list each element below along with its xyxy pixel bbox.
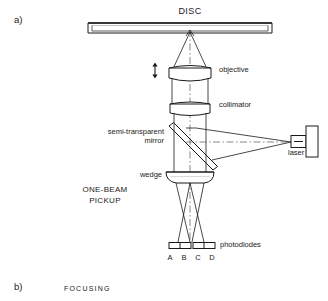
disc-shape xyxy=(88,23,272,33)
objective-label: objective xyxy=(219,65,249,74)
pickup-label-line1: ONE-BEAM xyxy=(58,185,152,196)
panel-b-label: b) xyxy=(14,281,22,292)
panel-a-label: a) xyxy=(14,14,22,25)
semi-transparent-mirror-shape xyxy=(169,123,218,171)
collimator-lens xyxy=(170,102,210,116)
optical-pickup-figure: a) DISC objective collimator semi-transp… xyxy=(0,0,328,301)
semi-transparent-mirror-label-line2: mirror xyxy=(46,136,164,145)
wedge-lens xyxy=(166,172,214,183)
photodiode-array xyxy=(169,243,215,249)
panel-b-title: FOCUSING xyxy=(64,284,111,293)
photodiode-letter-b: B xyxy=(178,253,190,262)
pickup-label-line2: PICKUP xyxy=(58,196,152,207)
objective-lens xyxy=(169,66,211,82)
photodiode-letter-d: D xyxy=(206,253,218,262)
photodiode-letter-c: C xyxy=(192,253,204,262)
laser-label: laser xyxy=(288,148,304,157)
disc-label: DISC xyxy=(155,6,225,16)
photodiodes-label: photodiodes xyxy=(220,240,261,249)
collimator-label: collimator xyxy=(219,100,251,109)
semi-transparent-mirror-label-line1: semi-transparent xyxy=(46,127,164,136)
wedge-label: wedge xyxy=(100,170,162,179)
objective-travel-arrow-icon xyxy=(152,63,157,79)
beam-laser-to-mirror xyxy=(186,128,291,160)
photodiode-letter-a: A xyxy=(164,253,176,262)
